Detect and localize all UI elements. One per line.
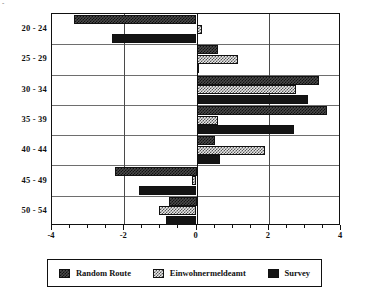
legend-swatch-einwohnermeldeamt xyxy=(153,269,164,278)
y-axis-label: 50 - 54 xyxy=(22,205,47,215)
bar xyxy=(197,45,219,54)
bar xyxy=(197,106,327,115)
gridline-vertical xyxy=(269,14,270,224)
x-axis-tick-minor xyxy=(141,225,142,228)
x-axis-tick-minor xyxy=(87,225,88,228)
legend-item: Random Route xyxy=(59,268,131,278)
legend-label-random-route: Random Route xyxy=(76,268,131,278)
legend-label-survey: Survey xyxy=(285,268,311,278)
y-axis-label: 40 - 44 xyxy=(22,144,47,154)
legend-swatch-random-route xyxy=(59,269,70,278)
bar xyxy=(197,55,239,64)
gridline-horizontal xyxy=(52,135,339,136)
y-axis-label: 45 - 49 xyxy=(22,175,47,185)
corner-artifact: - xyxy=(2,1,9,6)
bar xyxy=(197,95,309,104)
x-axis-tick-label: 2 xyxy=(266,230,270,240)
x-axis-tick-minor xyxy=(214,225,215,228)
bar xyxy=(112,34,197,43)
x-axis-tick-minor xyxy=(69,225,70,228)
x-axis-tick-minor xyxy=(286,225,287,228)
y-axis-label: 25 - 29 xyxy=(22,53,47,63)
bar xyxy=(197,146,266,155)
bar xyxy=(159,206,197,215)
x-axis-tick-labels: -4-2024 xyxy=(0,230,368,244)
bar-chart: - 20 - 2425 - 2930 - 3435 - 3940 - 4445 … xyxy=(0,0,368,297)
x-axis-tick-minor xyxy=(232,225,233,228)
bar xyxy=(197,25,202,34)
gridline-vertical xyxy=(124,14,125,224)
y-axis-label: 20 - 24 xyxy=(22,23,47,33)
x-axis-tick-label: 0 xyxy=(193,230,197,240)
legend-label-einwohnermeldeamt: Einwohnermeldeamt xyxy=(170,268,246,278)
plot-area xyxy=(51,13,340,225)
x-axis-tick-label: -2 xyxy=(120,230,127,240)
bar xyxy=(197,125,295,134)
y-axis-label: 30 - 34 xyxy=(22,84,47,94)
bar xyxy=(74,15,197,24)
y-axis-labels: 20 - 2425 - 2930 - 3435 - 3940 - 4445 - … xyxy=(0,13,47,225)
bar xyxy=(197,136,215,145)
bar xyxy=(166,216,197,225)
legend-swatch-survey xyxy=(268,269,279,278)
bar xyxy=(192,176,197,185)
chart-legend: Random Route Einwohnermeldeamt Survey xyxy=(47,259,322,287)
bar xyxy=(139,186,197,195)
x-axis-tick-minor xyxy=(322,225,323,228)
y-axis-label: 35 - 39 xyxy=(22,114,47,124)
x-axis-tick-minor xyxy=(105,225,106,228)
bar xyxy=(169,197,196,206)
x-axis-tick-minor xyxy=(177,225,178,228)
legend-item: Survey xyxy=(268,268,311,278)
x-axis-tick-minor xyxy=(159,225,160,228)
x-axis-tick-label: 4 xyxy=(338,230,342,240)
bar xyxy=(197,155,220,164)
gridline-horizontal xyxy=(52,44,339,45)
bar xyxy=(197,116,219,125)
legend-item: Einwohnermeldeamt xyxy=(153,268,246,278)
bar xyxy=(197,76,320,85)
bar xyxy=(197,64,200,73)
x-axis-tick-minor xyxy=(250,225,251,228)
bar xyxy=(197,85,296,94)
x-axis-tick-minor xyxy=(304,225,305,228)
bar xyxy=(115,167,196,176)
x-axis-tick-label: -4 xyxy=(47,230,54,240)
